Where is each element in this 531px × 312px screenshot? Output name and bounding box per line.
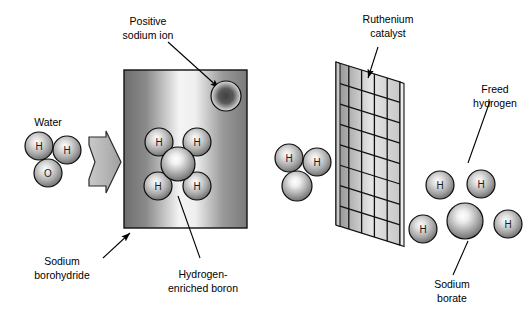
label-line-2: hydrogen [473,97,517,109]
molecule-sodium-borate: H H H H [409,170,522,243]
atom-label: O [44,168,52,179]
atom-hydrogen: H [53,136,81,164]
atom-boron [161,147,195,181]
label-line-2: catalyst [370,27,406,39]
label-line-1: Ruthenium [363,13,414,25]
atom-hydrogen: H [303,148,331,176]
atom-boron [447,203,483,239]
label-line-2: enriched boron [168,282,238,294]
label-positive-sodium-ion: Positive sodium ion [123,15,174,41]
label-line-2: borohydride [34,269,90,281]
label-line-2: sodium ion [123,29,174,41]
label-ruthenium-catalyst: Ruthenium catalyst [363,13,414,39]
label-line-1: Freed [481,83,509,95]
atom-label: H [35,141,42,152]
atom-label: H [155,137,162,148]
leader-sodium-borohydride [103,233,130,258]
label-line-1: Sodium [434,278,470,290]
diagram-canvas: H H O H H H [0,0,531,312]
atom-label: H [313,157,320,168]
atom-hydrogen: H [467,170,495,198]
label-line-2: borate [437,292,467,304]
atom-label: H [63,145,70,156]
atom-label: H [193,137,200,148]
label-sodium-borate: Sodium borate [434,278,470,304]
atom-boron [282,171,312,201]
atom-label: H [504,219,511,230]
atom-oxygen: O [34,159,62,187]
atom-label: H [154,181,161,192]
atom-hydrogen: H [275,144,303,172]
label-freed-hydrogen: Freed hydrogen [473,83,517,109]
atom-hydrogen: H [494,210,522,238]
label-hydrogen-enriched-boron: Hydrogen- enriched boron [168,268,238,294]
atom-label: H [477,179,484,190]
label-sodium-borohydride: Sodium borohydride [34,255,90,281]
atom-label: H [193,181,200,192]
label-line-1: Water [34,116,62,128]
leader-sodium-borate [453,241,468,275]
molecule-water: H H O [25,132,81,187]
atom-sodium-ion [211,81,241,111]
label-line-1: Hydrogen- [178,268,228,280]
atom-hydrogen: H [409,215,437,243]
molecule-water-approaching: H H [275,144,331,201]
atom-label: H [419,224,426,235]
flow-arrow [89,131,121,193]
atom-label: H [436,180,443,191]
atom-hydrogen: H [426,171,454,199]
label-line-1: Positive [130,15,167,27]
ruthenium-catalyst-grid [336,62,404,247]
atom-label: H [285,153,292,164]
leader-freed-hydrogen [468,101,490,163]
label-line-1: Sodium [44,255,80,267]
atom-hydrogen: H [25,132,53,160]
label-water: Water [34,116,62,128]
reaction-diagram: H H O H H H [0,0,531,312]
